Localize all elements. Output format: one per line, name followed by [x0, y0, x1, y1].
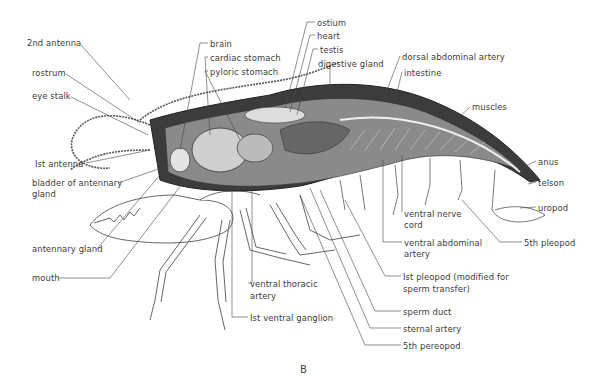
label-ventral-thoracic-artery: ventral thoracic [250, 279, 318, 289]
label-bladder-of-antennary-gland-line2: gland [32, 189, 56, 199]
label-heart: heart [317, 31, 340, 41]
label-mouth: mouth [32, 273, 60, 283]
label-ostium: ostium [317, 18, 346, 28]
label-pyloric-stomach: pyloric stomach [210, 67, 278, 77]
brain-shape [170, 148, 190, 172]
label-1st-pleopod: Ist pleopod (modified for [403, 272, 509, 282]
label-bladder-of-antennary-gland: bladder of antennary [32, 178, 122, 188]
label-telson: telson [538, 178, 564, 188]
label-sperm-duct: sperm duct [403, 307, 451, 317]
label-uropod: uropod [538, 203, 568, 213]
label-ventral-nerve-cord: ventral nerve [404, 209, 462, 219]
label-ventral-nerve-cord-line2: cord [404, 220, 423, 230]
label-1st-pleopod-line2: sperm transfer) [403, 284, 470, 294]
label-ventral-abdominal-artery: ventral abdominal [404, 238, 482, 248]
pyloric-stomach-shape [237, 134, 273, 162]
label-anus: anus [538, 157, 559, 167]
label-muscles: muscles [472, 102, 507, 112]
label-brain: brain [210, 39, 232, 49]
label-2nd-antenna: 2nd antenna [27, 38, 81, 48]
label-ventral-abdominal-artery-line2: artery [404, 249, 430, 259]
label-1st-ventral-ganglion: Ist ventral ganglion [250, 313, 333, 323]
label-1st-antenna: Ist antenna [35, 159, 84, 169]
label-eye-stalk: eye stalk [32, 91, 71, 101]
label-digestive-gland: digestive gland [318, 59, 384, 69]
label-intestine: intestine [404, 68, 441, 78]
label-5th-pleopod: 5th pleopod [524, 238, 575, 248]
label-sternal-artery: sternal artery [403, 324, 461, 334]
label-antennary-gland: antennary gland [32, 244, 103, 254]
label-testis: testis [320, 45, 343, 55]
crayfish-diagram [0, 0, 598, 385]
figure-label: B [300, 364, 307, 375]
body-section-drawing [150, 84, 540, 191]
label-cardiac-stomach: cardiac stomach [210, 53, 281, 63]
claw-drawing [90, 191, 260, 243]
label-5th-pereopod: 5th pereopod [403, 341, 461, 351]
label-rostrum: rostrum [32, 68, 66, 78]
label-ventral-thoracic-artery-line2: artery [250, 291, 276, 301]
label-dorsal-abdominal-artery: dorsal abdominal artery [402, 52, 505, 62]
heart-shape [245, 107, 305, 123]
